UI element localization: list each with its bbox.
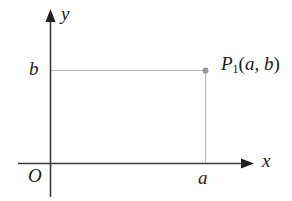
axes-and-guides-graphic — [0, 0, 292, 201]
y-axis-label: y — [61, 4, 69, 23]
point-label-y: b — [264, 53, 274, 74]
point-label-close-paren: ) — [273, 53, 279, 74]
x-axis-arrowhead-icon — [241, 159, 254, 169]
point-label-name: P — [221, 53, 233, 74]
point-marker-p1 — [202, 67, 208, 73]
coordinate-plane-figure: y x O b a P1(a, b) — [0, 0, 292, 201]
y-tick-label-b: b — [29, 59, 39, 78]
point-label-p1: P1(a, b) — [221, 54, 280, 75]
origin-label: O — [28, 166, 42, 185]
x-tick-label-a: a — [198, 168, 208, 187]
y-axis-arrowhead-icon — [46, 9, 56, 22]
x-axis-label: x — [262, 151, 270, 170]
point-label-comma: , — [254, 53, 264, 74]
point-label-x: a — [245, 53, 255, 74]
